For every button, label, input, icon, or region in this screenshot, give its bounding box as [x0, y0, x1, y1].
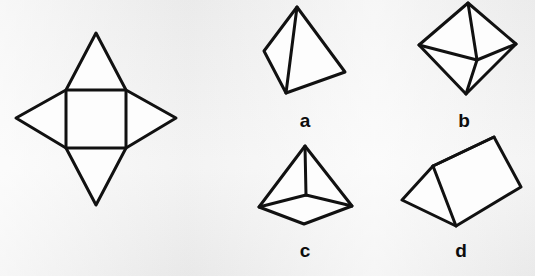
net-outline — [16, 33, 176, 205]
option-label-a: a — [285, 111, 325, 130]
option-label-c: c — [285, 241, 325, 260]
geometry-figure-canvas — [0, 0, 535, 276]
option-d-triangular-prism[interactable] — [402, 137, 521, 226]
option-b-octahedron[interactable] — [419, 3, 516, 94]
option-a-tetrahedron[interactable] — [264, 7, 345, 93]
square-pyramid-net — [16, 33, 176, 205]
option-label-b: b — [444, 111, 484, 130]
square-pyramid-lateral-edge-front — [305, 146, 306, 195]
triangular-prism-outline — [402, 137, 521, 226]
figure-page: a b c d — [0, 0, 535, 276]
tetrahedron-outline — [264, 7, 345, 93]
option-c-square-pyramid[interactable] — [259, 146, 352, 224]
option-label-d: d — [441, 241, 481, 260]
